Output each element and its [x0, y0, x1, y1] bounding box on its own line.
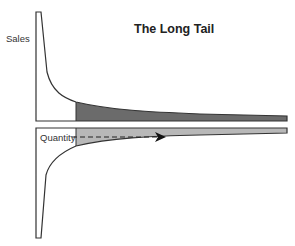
diagram-title: The Long Tail [134, 22, 214, 36]
sales-axis-label: Sales [6, 33, 30, 44]
quantity-panel [36, 128, 287, 238]
quantity-curve [36, 128, 287, 238]
sales-tail-area [76, 102, 287, 121]
long-tail-diagram [0, 0, 295, 246]
quantity-axis-label: Quantity [40, 132, 75, 143]
